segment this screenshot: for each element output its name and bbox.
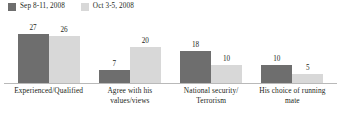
bar-value-label: 26	[60, 26, 67, 35]
bar-column[interactable]: 20	[130, 22, 161, 83]
bar-groups: 27267201810105	[8, 22, 333, 83]
bar-value-label: 27	[29, 24, 36, 33]
category-axis-labels: Experienced/QualifiedAgree with hisvalue…	[8, 86, 333, 106]
bar-value-label: 20	[142, 37, 149, 46]
legend-label-sep: Sep 8-11, 2008	[20, 2, 65, 11]
legend-swatch-icon-sep	[8, 3, 16, 11]
legend-item-sep: Sep 8-11, 2008	[8, 2, 65, 11]
bar-value-label: 10	[223, 55, 230, 64]
bar-column[interactable]: 27	[18, 22, 49, 83]
bar-value-label: 5	[306, 64, 310, 73]
category-label: National security/Terrorism	[171, 86, 252, 106]
bar-column[interactable]: 10	[261, 22, 292, 83]
bar-column[interactable]: 18	[180, 22, 211, 83]
bar-column[interactable]: 7	[99, 22, 130, 83]
bar-column[interactable]: 26	[49, 22, 80, 83]
category-label-line: values/views	[91, 96, 168, 106]
bar-group: 720	[89, 22, 170, 83]
chart-legend: Sep 8-11, 2008 Oct 3-5, 2008	[8, 2, 134, 11]
bar[interactable]	[180, 51, 211, 83]
x-axis-line	[4, 83, 337, 84]
bar-column[interactable]: 5	[292, 22, 323, 83]
bar[interactable]	[292, 74, 323, 83]
category-label-line: His choice of running	[254, 86, 331, 96]
bar[interactable]	[49, 36, 80, 83]
bar-group: 105	[252, 22, 333, 83]
category-label-line: mate	[254, 96, 331, 106]
bar-value-label: 10	[273, 55, 280, 64]
category-label-line: Terrorism	[173, 96, 250, 106]
category-label: Agree with hisvalues/views	[89, 86, 170, 106]
bar-column[interactable]: 10	[211, 22, 242, 83]
category-label: Experienced/Qualified	[8, 86, 89, 106]
legend-swatch-icon-oct	[81, 3, 89, 11]
bar-group: 1810	[171, 22, 252, 83]
category-label-line: Agree with his	[91, 86, 168, 96]
grouped-bar-chart: Sep 8-11, 2008 Oct 3-5, 2008 27267201810…	[0, 0, 341, 115]
bar[interactable]	[99, 70, 130, 83]
legend-item-oct: Oct 3-5, 2008	[81, 2, 134, 11]
bar[interactable]	[18, 34, 49, 83]
bar[interactable]	[211, 65, 242, 83]
bar-value-label: 7	[113, 60, 117, 69]
category-label-line: National security/	[173, 86, 250, 96]
category-label-line: Experienced/Qualified	[10, 86, 87, 96]
bar-value-label: 18	[192, 41, 199, 50]
bar[interactable]	[261, 65, 292, 83]
plot-area: 27267201810105	[0, 22, 341, 84]
legend-label-oct: Oct 3-5, 2008	[93, 2, 134, 11]
bar[interactable]	[130, 47, 161, 83]
bar-group: 2726	[8, 22, 89, 83]
category-label: His choice of runningmate	[252, 86, 333, 106]
